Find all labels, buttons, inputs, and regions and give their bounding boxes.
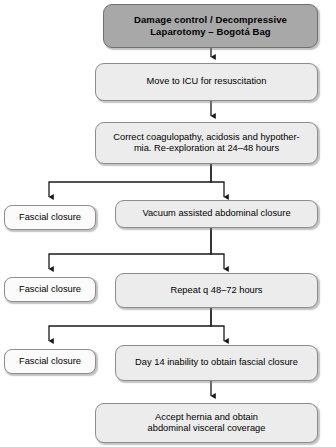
node-vacuum-assisted: Vacuum assisted abdominal closure [115,200,318,228]
node-fascial-closure-1-label: Fascial closure [13,212,87,223]
node-day-14: Day 14 inability to obtain fascial closu… [115,345,318,381]
flowchart-canvas: Damage control / Decompressive Laparotom… [0,0,336,447]
node-damage-control-label: Damage control / Decompressive Laparotom… [128,14,293,37]
arrow-repeat-to-fascial-3 [49,308,211,341]
arrow-vacuum-to-fascial-2 [49,228,211,269]
node-vacuum-assisted-label: Vacuum assisted abdominal closure [136,208,296,219]
node-move-to-icu: Move to ICU for resuscitation [95,63,318,101]
node-day-14-label: Day 14 inability to obtain fascial closu… [129,357,304,368]
node-correct-coagulopathy: Correct coagulopathy, acidosis and hypot… [95,122,318,164]
node-accept-hernia-label: Accept hernia and obtain abdominal visce… [142,412,272,435]
node-repeat-q48-label: Repeat q 48–72 hours [164,285,268,296]
arrow-correct-to-vacuum [211,164,224,197]
node-fascial-closure-3-label: Fascial closure [13,356,87,367]
node-damage-control: Damage control / Decompressive Laparotom… [103,4,318,48]
arrow-correct-to-fascial-1 [49,164,211,197]
node-fascial-closure-2-label: Fascial closure [13,284,87,295]
node-move-to-icu-label: Move to ICU for resuscitation [141,76,273,87]
node-accept-hernia: Accept hernia and obtain abdominal visce… [95,403,318,443]
arrow-vacuum-to-repeat [211,228,224,269]
node-fascial-closure-2: Fascial closure [4,277,96,302]
node-repeat-q48: Repeat q 48–72 hours [115,273,318,308]
node-fascial-closure-3: Fascial closure [4,349,96,374]
node-fascial-closure-1: Fascial closure [4,205,96,230]
arrow-repeat-to-day14 [211,308,224,341]
node-correct-coagulopathy-label: Correct coagulopathy, acidosis and hypot… [107,132,305,155]
